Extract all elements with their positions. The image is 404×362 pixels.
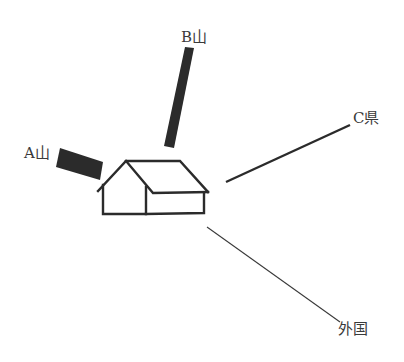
diagram-canvas: A山 B山 C県 外国 [0,0,404,362]
label-c: C県 [353,109,379,127]
a-mountain-block [56,148,103,180]
foreign-line [207,227,340,322]
c-prefecture-line [226,125,350,182]
b-mountain-bar [164,47,194,148]
label-foreign: 外国 [338,320,368,338]
house-icon [98,161,208,214]
label-a: A山 [23,144,50,162]
label-b: B山 [181,28,207,46]
